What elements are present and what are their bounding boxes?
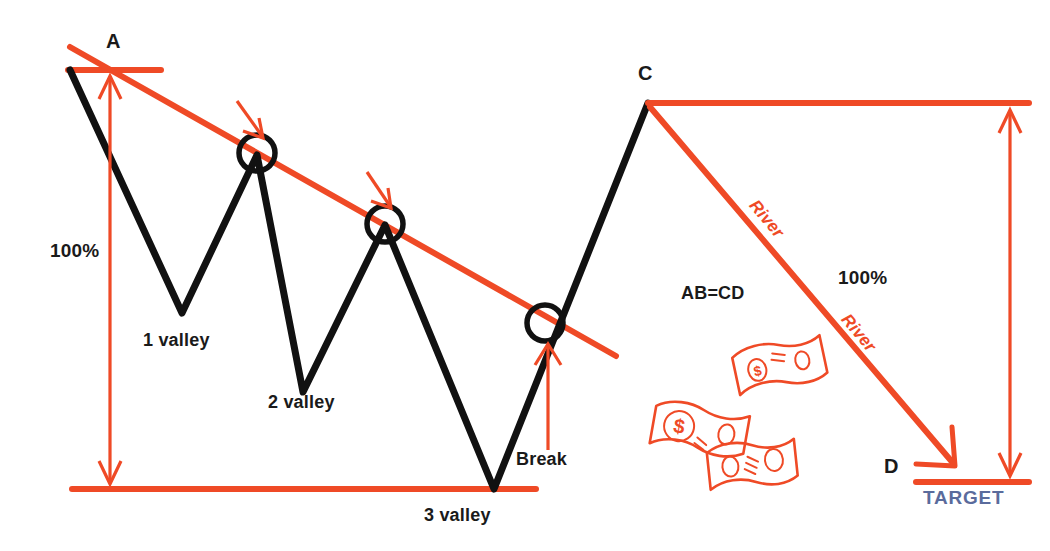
label-ab-equals-cd: AB=CD	[681, 283, 745, 304]
label-target: TARGET	[923, 487, 1005, 509]
label-valley-3: 3 valley	[424, 505, 491, 526]
down-arrow-to-peak-2	[367, 172, 391, 208]
svg-text:$: $	[672, 414, 687, 438]
chart-pattern-diagram: .ln-black{stroke:#111111;stroke-width:7;…	[0, 0, 1050, 551]
falling-money-icon: $ $	[650, 332, 829, 491]
label-left-100-percent: 100%	[50, 240, 99, 262]
label-point-d: D	[884, 455, 899, 478]
label-break: Break	[516, 449, 567, 470]
up-arrow-break	[535, 344, 561, 450]
label-right-100-percent: 100%	[838, 267, 887, 289]
price-path	[70, 70, 648, 489]
label-point-c: C	[638, 62, 653, 85]
label-valley-2: 2 valley	[268, 392, 335, 413]
label-point-a: A	[106, 30, 121, 53]
label-valley-1: 1 valley	[143, 330, 210, 351]
measure-right-100	[999, 110, 1021, 476]
down-arrow-to-peak-1	[237, 101, 263, 138]
svg-text:$: $	[752, 362, 763, 379]
